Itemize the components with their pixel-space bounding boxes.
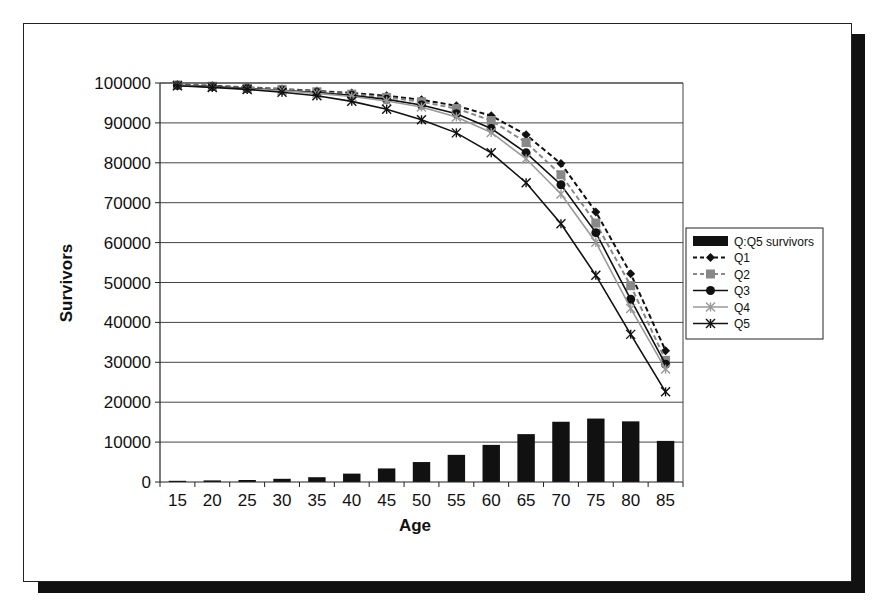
x-tick-label: 75 xyxy=(586,491,605,510)
x-tick-label: 40 xyxy=(342,491,361,510)
x-tick-label: 20 xyxy=(203,491,222,510)
legend: Q:Q5 survivorsQ1Q2Q3Q4Q5 xyxy=(686,228,823,339)
x-tick-label: 65 xyxy=(517,491,536,510)
y-tick-label: 90000 xyxy=(104,114,151,133)
y-tick-label: 60000 xyxy=(104,234,151,253)
x-tick-label: 70 xyxy=(552,491,571,510)
x-axis-title: Age xyxy=(399,516,431,535)
bar xyxy=(657,441,674,482)
legend-label: Q5 xyxy=(734,317,750,331)
legend-label: Q:Q5 survivors xyxy=(734,235,814,249)
y-tick-label: 80000 xyxy=(104,154,151,173)
legend-swatch xyxy=(693,236,728,246)
y-tick-label: 10000 xyxy=(104,433,151,452)
x-tick-label: 35 xyxy=(307,491,326,510)
line-series xyxy=(173,80,670,396)
legend-label: Q1 xyxy=(734,251,750,265)
x-tick-label: 30 xyxy=(273,491,292,510)
y-tick-label: 30000 xyxy=(104,353,151,372)
y-axis-title: Survivors xyxy=(57,244,76,322)
legend-label: Q3 xyxy=(734,284,750,298)
chart-canvas: 0100002000030000400005000060000700008000… xyxy=(0,0,885,609)
x-tick-label: 55 xyxy=(447,491,466,510)
bar xyxy=(308,477,325,482)
x-tick-label: 45 xyxy=(377,491,396,510)
x-tick-label: 80 xyxy=(621,491,640,510)
y-tick-label: 70000 xyxy=(104,194,151,213)
y-tick-label: 0 xyxy=(142,473,151,492)
bar xyxy=(517,434,534,482)
bar xyxy=(552,422,569,482)
y-tick-label: 20000 xyxy=(104,393,151,412)
y-tick-labels: 0100002000030000400005000060000700008000… xyxy=(94,74,151,492)
y-tick-label: 50000 xyxy=(104,274,151,293)
bar xyxy=(378,468,395,482)
legend-label: Q4 xyxy=(734,301,750,315)
x-tick-label: 15 xyxy=(168,491,187,510)
x-tick-label: 85 xyxy=(656,491,675,510)
y-tick-label: 40000 xyxy=(104,313,151,332)
bar xyxy=(448,455,465,482)
bar-series xyxy=(169,419,675,482)
bar xyxy=(483,445,500,482)
bar xyxy=(343,474,360,482)
x-tick-label: 25 xyxy=(238,491,257,510)
y-tick-label: 100000 xyxy=(94,74,151,93)
bar xyxy=(413,462,430,482)
bar xyxy=(587,419,604,482)
x-tick-label: 50 xyxy=(412,491,431,510)
x-tick-label: 60 xyxy=(482,491,501,510)
x-tick-labels: 152025303540455055606570758085 xyxy=(168,491,675,510)
legend-label: Q2 xyxy=(734,268,750,282)
bar xyxy=(622,421,639,482)
